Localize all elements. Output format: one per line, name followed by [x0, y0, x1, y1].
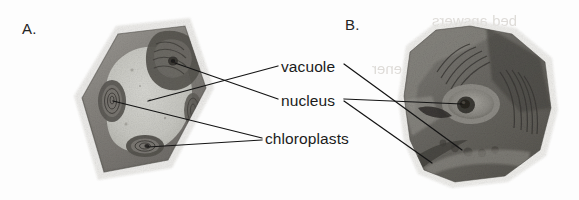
leader-nucleus-b — [344, 99, 462, 104]
ghost-text: chemical ener — [372, 60, 465, 77]
cell-a-micrograph — [64, 18, 214, 180]
ghost-text: kinet — [506, 88, 538, 105]
label-chloroplasts: chloroplasts — [265, 130, 349, 148]
ghost-text: lar — [186, 58, 203, 75]
ghost-text: nom — [512, 112, 541, 129]
leader-chloroplast-a-bottom — [148, 140, 262, 147]
figure-canvas: bed answers chemical ener kinet nom opm … — [0, 0, 579, 200]
ghost-text: opm — [506, 136, 535, 153]
panel-letter-b: B. — [345, 16, 360, 33]
leader-vacuole-a — [148, 66, 278, 101]
leader-chloroplast-a-left — [113, 101, 262, 138]
leader-chloroplast-b — [344, 101, 432, 163]
label-nucleus: nucleus — [281, 92, 335, 110]
ghost-text: bed answers — [432, 12, 517, 29]
label-vacuole: vacuole — [281, 58, 335, 76]
panel-letter-a: A. — [22, 20, 37, 37]
